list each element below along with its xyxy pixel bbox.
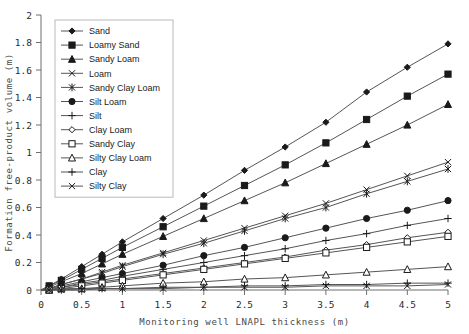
marker-circle: [323, 225, 329, 231]
x-tick-label: 0.5: [73, 299, 90, 310]
x-tick-label: 4: [364, 299, 370, 310]
y-tick-label: 0.2: [15, 257, 32, 268]
y-tick-label: 0.4: [15, 230, 32, 241]
marker-triangle: [322, 160, 329, 167]
legend-label-9: Silty Clay Loam: [89, 153, 152, 163]
x-tick-label: 0: [38, 299, 44, 310]
legend-label-5: Silt Loam: [89, 97, 127, 107]
marker-triangle: [363, 141, 370, 148]
marker-triangle: [119, 251, 126, 258]
legend-label-1: Loamy Sand: [89, 40, 140, 50]
y-tick-label: 0.6: [15, 202, 32, 213]
x-tick-label: 4.5: [399, 299, 416, 310]
marker-circle: [364, 215, 370, 221]
marker-diamond: [445, 41, 451, 47]
x-axis-title: Monitoring well LNAPL thickness (m): [139, 317, 350, 327]
marker-square: [201, 203, 207, 209]
marker-open-square: [445, 233, 451, 239]
x-tick-label: 5: [445, 299, 451, 310]
marker-triangle: [241, 197, 248, 204]
marker-circle: [282, 235, 288, 241]
y-tick-label: 1.2: [15, 120, 32, 131]
marker-circle: [241, 244, 247, 250]
marker-square: [323, 140, 329, 146]
marker-circle: [445, 198, 451, 204]
legend-label-0: Sand: [89, 26, 110, 36]
y-tick-label: 1.6: [15, 65, 32, 76]
marker-open-square: [282, 255, 288, 261]
x-tick-label: 3: [282, 299, 288, 310]
x-tick-label: 2: [201, 299, 207, 310]
y-tick-label: 0.8: [15, 175, 32, 186]
marker-diamond: [282, 144, 288, 150]
x-tick-label: 1.5: [155, 299, 172, 310]
legend-label-8: Sandy Clay: [89, 139, 136, 149]
marker-open-square: [241, 261, 247, 267]
marker-circle: [69, 98, 75, 104]
legend-label-3: Loam: [89, 69, 112, 79]
marker-open-square: [201, 266, 207, 272]
chart-figure: 00.511.522.533.544.5500.20.40.60.811.21.…: [0, 0, 469, 334]
marker-open-square: [404, 239, 410, 245]
marker-triangle: [404, 121, 411, 128]
marker-diamond: [160, 215, 166, 221]
marker-diamond: [241, 167, 247, 173]
legend-label-11: Silty Clay: [89, 181, 127, 191]
y-axis-title: Formation free-product volume (m): [4, 53, 14, 252]
marker-diamond: [404, 64, 410, 70]
marker-triangle: [160, 233, 167, 240]
legend-label-10: Clay: [89, 167, 108, 177]
marker-circle: [201, 253, 207, 259]
legend-label-4: Sandy Clay Loam: [89, 83, 160, 93]
marker-triangle: [200, 215, 207, 222]
y-tick-label: 1.4: [15, 92, 32, 103]
marker-square: [69, 42, 75, 48]
y-tick-label: 1.8: [15, 37, 32, 48]
y-tick-label: 1: [26, 147, 32, 158]
x-tick-label: 2.5: [236, 299, 253, 310]
marker-square: [282, 162, 288, 168]
marker-triangle: [445, 101, 452, 108]
marker-square: [241, 182, 247, 188]
marker-square: [404, 93, 410, 99]
legend-label-2: Sandy Loam: [89, 54, 140, 64]
marker-open-square: [364, 244, 370, 250]
legend: SandLoamy SandSandy LoamLoamSandy Clay L…: [55, 20, 173, 197]
marker-open-square: [69, 141, 75, 147]
y-tick-label: 2: [26, 10, 32, 21]
marker-circle: [404, 207, 410, 213]
marker-square: [364, 116, 370, 122]
y-tick-label: 0: [26, 285, 32, 296]
x-tick-label: 1: [120, 299, 126, 310]
marker-square: [160, 224, 166, 230]
marker-open-square: [160, 272, 166, 278]
legend-label-6: Silt: [89, 111, 102, 121]
x-tick-label: 3.5: [317, 299, 334, 310]
legend-label-7: Clay Loam: [89, 125, 132, 135]
marker-triangle: [282, 179, 289, 186]
marker-square: [445, 71, 451, 77]
marker-diamond: [201, 192, 207, 198]
chart-svg: 00.511.522.533.544.5500.20.40.60.811.21.…: [0, 0, 469, 334]
marker-open-square: [323, 250, 329, 256]
